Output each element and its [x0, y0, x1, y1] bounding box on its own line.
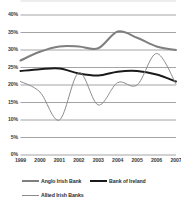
- x-axis-tick-label: 2007: [170, 157, 181, 163]
- legend-item-allied-irish-banks[interactable]: Allied Irish Banks: [22, 192, 84, 198]
- y-axis-tick-label: 10%: [2, 117, 18, 122]
- legend-label-anglo-irish-bank: Anglo Irish Bank: [41, 178, 81, 184]
- x-axis: 199920002001200220032004200520062007: [0, 157, 181, 169]
- x-axis-tick-label: 2001: [54, 157, 65, 163]
- legend-swatch-bank-of-ireland: [90, 180, 107, 182]
- legend-item-bank-of-ireland[interactable]: Bank of Ireland: [90, 178, 146, 184]
- x-axis-tick-label: 2004: [112, 157, 123, 163]
- series-line-allied-irish-banks: [21, 53, 177, 120]
- y-axis-tick-label: 35%: [2, 30, 18, 35]
- y-axis-tick-label: 15%: [2, 100, 18, 105]
- x-axis-tick-label: 2005: [132, 157, 143, 163]
- chart-legend: Anglo Irish Bank Bank of Ireland Allied …: [0, 174, 181, 204]
- legend-swatch-anglo-irish-bank: [22, 180, 39, 182]
- y-axis-tick-label: 30%: [2, 47, 18, 52]
- y-axis-tick-label: 20%: [2, 82, 18, 87]
- y-axis-tick-label: 25%: [2, 65, 18, 70]
- x-axis-tick-label: 2002: [73, 157, 84, 163]
- series-lines: [21, 31, 177, 120]
- gridlines: [21, 1, 177, 155]
- y-axis-tick-label: 40%: [2, 12, 18, 17]
- series-line-bank-of-ireland: [21, 68, 177, 81]
- x-axis-tick-label: 2003: [93, 157, 104, 163]
- legend-label-allied-irish-banks: Allied Irish Banks: [41, 192, 84, 198]
- legend-label-bank-of-ireland: Bank of Ireland: [109, 178, 146, 184]
- legend-item-anglo-irish-bank[interactable]: Anglo Irish Bank: [22, 178, 81, 184]
- legend-swatch-allied-irish-banks: [22, 195, 39, 196]
- y-axis-tick-label: 5%: [2, 135, 18, 140]
- x-axis-tick-label: 2000: [34, 157, 45, 163]
- line-chart: 0%5%10%15%20%25%30%35%40% 19992000200120…: [0, 0, 181, 208]
- x-axis-tick-label: 1999: [15, 157, 26, 163]
- x-axis-tick-label: 2006: [151, 157, 162, 163]
